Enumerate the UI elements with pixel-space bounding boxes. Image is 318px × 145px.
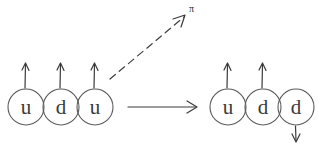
left-quark-1[interactable]: u xyxy=(8,63,44,125)
quark-label-left-2: d xyxy=(56,95,67,119)
right-quark-group: u d d xyxy=(210,63,314,142)
spin-up-arrow-shaft-right-2 xyxy=(262,64,263,88)
transition-arrow[interactable] xyxy=(128,101,197,113)
diagram-canvas: u d u π xyxy=(0,0,318,145)
quark-label-right-1: u xyxy=(223,95,234,119)
pion-arrow-shaft xyxy=(110,17,184,79)
quark-label-left-3: u xyxy=(90,95,101,119)
pion-emission-arrow[interactable]: π xyxy=(110,3,194,79)
spin-up-arrow-shaft-left-3 xyxy=(94,64,95,88)
quark-label-right-3: d xyxy=(291,95,302,119)
spin-down-arrow-shaft-right-3 xyxy=(296,126,297,141)
spin-up-arrow-shaft-left-2 xyxy=(60,64,61,88)
left-quark-3[interactable]: u xyxy=(77,63,113,125)
right-quark-1[interactable]: u xyxy=(210,63,246,125)
pion-label: π xyxy=(189,3,194,14)
spin-up-arrow-shaft-left-1 xyxy=(25,64,26,88)
spin-up-arrow-shaft-right-1 xyxy=(227,64,228,88)
quark-label-left-1: u xyxy=(21,95,32,119)
left-quark-group: u d u xyxy=(8,63,113,125)
diagram-svg: u d u π xyxy=(0,0,318,145)
right-quark-3[interactable]: d xyxy=(278,89,314,142)
left-quark-2[interactable]: d xyxy=(43,63,79,125)
quark-label-right-2: d xyxy=(258,95,269,119)
right-quark-2[interactable]: d xyxy=(245,63,281,125)
